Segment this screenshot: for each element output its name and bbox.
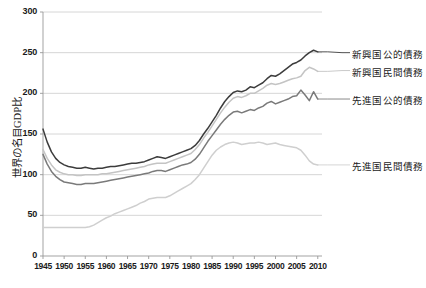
gridlines-group — [43, 12, 322, 215]
legend-leader-1 — [318, 71, 350, 72]
legend-label-3: 先進国民間債務 — [352, 159, 423, 173]
y-tick-label-250: 250 — [11, 47, 37, 57]
series-line-0 — [43, 50, 318, 169]
legend-label-0: 新興国公的債務 — [352, 47, 423, 61]
series-line-2 — [43, 90, 318, 184]
series-line-3 — [43, 142, 318, 227]
legend-label-1: 新興国民間債務 — [352, 65, 423, 79]
y-tick-label-200: 200 — [11, 87, 37, 97]
x-tick-label-2010: 2010 — [303, 261, 333, 271]
legend-leader-0 — [318, 52, 350, 53]
y-tick-label-300: 300 — [11, 6, 37, 16]
axis-lines-group — [40, 12, 322, 259]
data-series-group — [43, 50, 318, 227]
legend-leader-lines-group — [318, 52, 350, 165]
series-line-1 — [43, 67, 318, 175]
y-tick-label-150: 150 — [11, 128, 37, 138]
y-tick-label-0: 0 — [11, 250, 37, 260]
y-tick-label-50: 50 — [11, 209, 37, 219]
chart-container: 世界の名目GDP比 050100150200250300 19451950195… — [0, 0, 426, 288]
chart-plot-area — [0, 0, 426, 288]
legend-label-2: 先進国公的債務 — [352, 93, 423, 107]
y-tick-label-100: 100 — [11, 169, 37, 179]
